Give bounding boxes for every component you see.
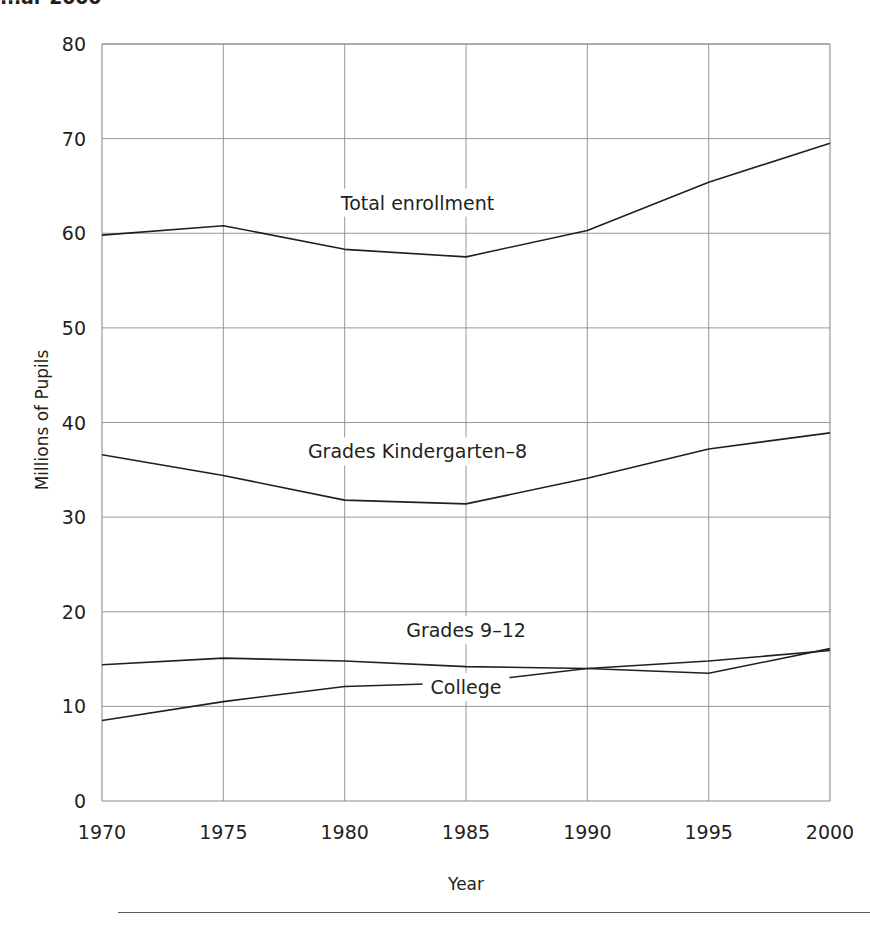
x-tick-label: 1980 (320, 821, 368, 843)
x-tick-label: 1970 (78, 821, 126, 843)
x-axis-title: Year (447, 874, 484, 894)
series-label: College (431, 676, 502, 698)
series-label: Grades 9–12 (406, 619, 526, 641)
footer-divider (118, 912, 870, 913)
y-tick-label: 80 (62, 33, 86, 55)
y-tick-label: 60 (62, 222, 86, 244)
line-chart-plot: 01020304050607080 1970197519801985199019… (0, 0, 870, 926)
y-tick-label: 50 (62, 317, 86, 339)
y-tick-label: 40 (62, 412, 86, 434)
x-tick-label: 1985 (442, 821, 490, 843)
x-tick-label: 1995 (684, 821, 732, 843)
chart-figure: ...ar 2000 01020304050607080 19701975198… (0, 0, 870, 926)
y-tick-label: 20 (62, 601, 86, 623)
series-labels-layer: Total enrollmentGrades Kindergarten–8Gra… (300, 189, 535, 701)
x-tick-label: 1990 (563, 821, 611, 843)
series-label: Total enrollment (340, 192, 494, 214)
x-tick-label: 1975 (199, 821, 247, 843)
series-label: Grades Kindergarten–8 (308, 440, 527, 462)
x-tick-label: 2000 (806, 821, 854, 843)
y-axis-title: Millions of Pupils (32, 350, 52, 491)
y-tick-label: 0 (74, 790, 86, 812)
x-axis-ticks: 1970197519801985199019952000 (78, 821, 854, 843)
y-tick-label: 70 (62, 128, 86, 150)
y-tick-label: 10 (62, 695, 86, 717)
y-axis-ticks: 01020304050607080 (62, 33, 86, 812)
y-tick-label: 30 (62, 506, 86, 528)
